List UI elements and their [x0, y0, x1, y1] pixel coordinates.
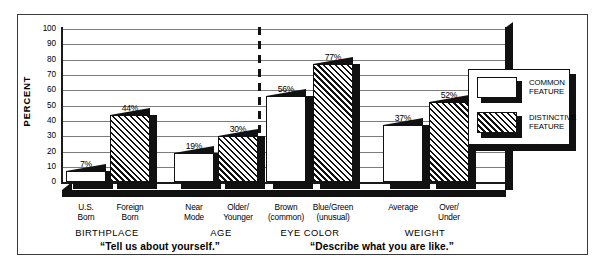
y-tick-50: 50 — [30, 102, 56, 110]
bar-foreign-born[interactable] — [110, 115, 150, 182]
bar-value-average-weight: 37% — [380, 114, 426, 123]
bar-face — [110, 115, 150, 182]
cat-label-blue-green-line2: (unusual) — [301, 213, 365, 223]
y-tick-30: 30 — [30, 132, 56, 140]
question-label-left: “Tell us about yourself.” — [60, 241, 260, 252]
cat-label-foreign-born-line2: Born — [98, 213, 162, 223]
legend-item-common-feature[interactable]: COMMON FEATURE — [477, 77, 567, 103]
gridline-100 — [62, 29, 505, 30]
y-tick-90: 90 — [30, 40, 56, 48]
bar-near-mode[interactable] — [174, 153, 214, 182]
bar-shadow — [73, 182, 113, 189]
bar-value-us-born: 7% — [63, 160, 109, 169]
bar-shadow — [320, 182, 360, 189]
bar-older-younger[interactable] — [218, 136, 258, 182]
bar-side — [353, 64, 360, 182]
bar-average-weight[interactable] — [383, 125, 423, 182]
group-label-age: AGE — [178, 228, 264, 238]
y-axis-label: PERCENT — [22, 66, 32, 136]
bar-us-born[interactable] — [66, 171, 106, 182]
bar-value-near-mode: 19% — [171, 142, 217, 151]
bar-value-foreign-born: 44% — [107, 104, 153, 113]
legend-swatch-shadow — [481, 133, 522, 138]
y-tick-10: 10 — [30, 163, 56, 171]
y-tick-80: 80 — [30, 56, 56, 64]
legend-label-distinctive: DISTINCTIVE FEATURE — [529, 113, 581, 131]
legend-swatch-common — [477, 77, 517, 98]
y-tick-0: 0 — [30, 178, 56, 186]
group-label-eye-color: EYE COLOR — [267, 228, 353, 238]
bar-shadow — [273, 182, 313, 189]
legend-label-common-line1: COMMON — [529, 78, 581, 87]
bar-over-under-weight[interactable] — [429, 102, 469, 182]
bar-shadow — [181, 182, 221, 189]
bar-face — [429, 102, 469, 182]
bar-face — [66, 171, 106, 182]
bar-face — [218, 136, 258, 182]
y-tick-70: 70 — [30, 71, 56, 79]
legend-item-distinctive-feature[interactable]: DISTINCTIVE FEATURE — [477, 112, 567, 138]
legend-label-common: COMMON FEATURE — [529, 78, 581, 96]
bar-shadow — [436, 182, 476, 189]
legend-label-common-line2: FEATURE — [529, 87, 581, 96]
bar-face — [266, 96, 306, 182]
y-tick-40: 40 — [30, 117, 56, 125]
bar-shadow — [390, 182, 430, 189]
chart-legend: COMMON FEATURE DISTINCTIVE FEATURE — [468, 69, 570, 145]
cat-label-over-under-line2: Under — [417, 213, 481, 223]
bar-side — [258, 136, 265, 182]
bar-shadow — [117, 182, 157, 189]
gridline-80 — [62, 60, 505, 61]
bar-blue-green-eyes[interactable] — [313, 64, 353, 182]
bar-face — [174, 153, 214, 182]
bar-value-over-under-weight: 52% — [426, 91, 472, 100]
y-tick-100: 100 — [30, 25, 56, 33]
plot-floor — [62, 190, 506, 197]
y-tick-60: 60 — [30, 86, 56, 94]
bar-face — [313, 64, 353, 182]
bar-chart: 100 90 80 70 60 50 40 30 20 10 0 PERCENT… — [0, 0, 604, 274]
legend-shadow-bottom — [473, 145, 576, 151]
bar-value-blue-green-eyes: 77% — [310, 53, 356, 62]
bar-value-older-younger: 30% — [215, 125, 261, 134]
bar-shadow — [225, 182, 265, 189]
group-label-weight: WEIGHT — [382, 228, 468, 238]
y-tick-20: 20 — [30, 148, 56, 156]
bar-side — [306, 96, 313, 182]
legend-label-distinctive-line2: FEATURE — [529, 122, 581, 131]
bar-brown-eyes[interactable] — [266, 96, 306, 182]
gridline-90 — [62, 44, 505, 45]
legend-label-distinctive-line1: DISTINCTIVE — [529, 113, 581, 122]
legend-swatch-shadow — [481, 98, 522, 103]
bar-side — [150, 115, 157, 182]
bar-face — [383, 125, 423, 182]
question-label-right: “Describe what you are like.” — [272, 241, 492, 252]
group-label-birthplace: BIRTHPLACE — [64, 228, 150, 238]
gridline-70 — [62, 75, 505, 76]
legend-swatch-distinctive — [477, 112, 517, 133]
bar-value-brown-eyes: 56% — [263, 85, 309, 94]
